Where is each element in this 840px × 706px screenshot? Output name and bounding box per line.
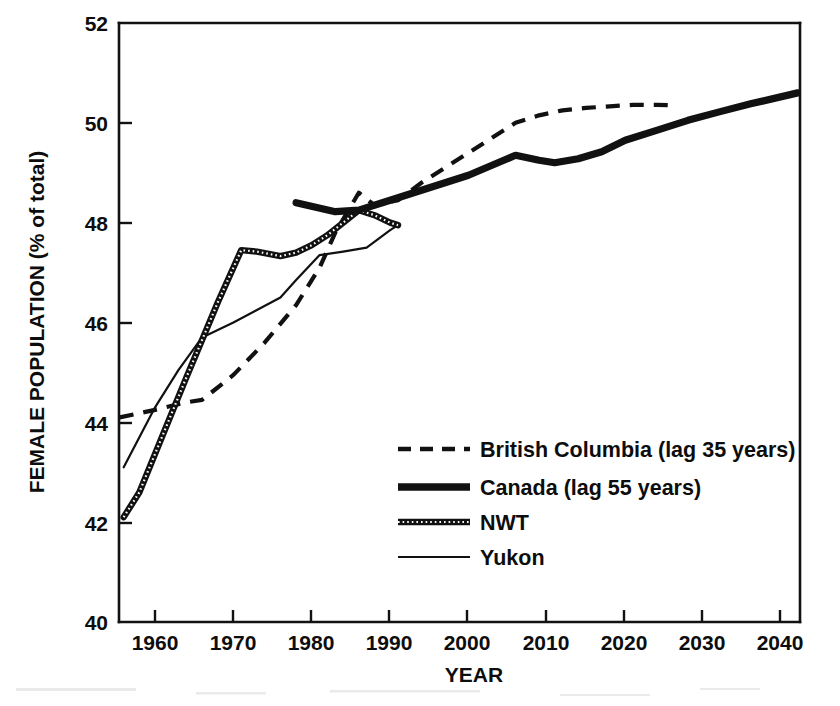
legend-label-yukon: Yukon <box>480 546 545 570</box>
line-chart-svg: 52 50 48 46 44 42 40 1960 1970 1980 1990… <box>0 0 840 706</box>
chart-figure: 52 50 48 46 44 42 40 1960 1970 1980 1990… <box>0 0 840 706</box>
x-tick-label: 1970 <box>210 631 257 654</box>
figure-background <box>0 0 840 706</box>
x-axis-title: YEAR <box>445 663 503 686</box>
x-tick-label: 1990 <box>366 631 413 654</box>
y-axis-title: FEMALE POPULATION (% of total) <box>25 151 48 494</box>
x-tick-label: 1960 <box>132 631 179 654</box>
y-tick-label: 48 <box>85 212 109 235</box>
legend-label-canada: Canada (lag 55 years) <box>480 476 701 500</box>
x-axis-tick-labels: 1960 1970 1980 1990 2000 2010 2020 2030 … <box>132 631 804 654</box>
x-tick-label: 2000 <box>444 631 491 654</box>
x-tick-label: 1980 <box>288 631 335 654</box>
x-tick-label: 2020 <box>601 631 648 654</box>
y-tick-label: 52 <box>85 12 108 35</box>
x-tick-label: 2040 <box>757 631 804 654</box>
y-tick-label: 46 <box>85 312 108 335</box>
y-tick-label: 50 <box>85 112 108 135</box>
y-tick-label: 40 <box>85 611 108 634</box>
y-tick-label: 42 <box>85 512 108 535</box>
legend-label-british-columbia: British Columbia (lag 35 years) <box>480 438 795 462</box>
y-tick-label: 44 <box>85 412 109 435</box>
legend-label-nwt: NWT <box>480 511 529 535</box>
x-tick-label: 2010 <box>523 631 570 654</box>
x-tick-label: 2030 <box>679 631 726 654</box>
